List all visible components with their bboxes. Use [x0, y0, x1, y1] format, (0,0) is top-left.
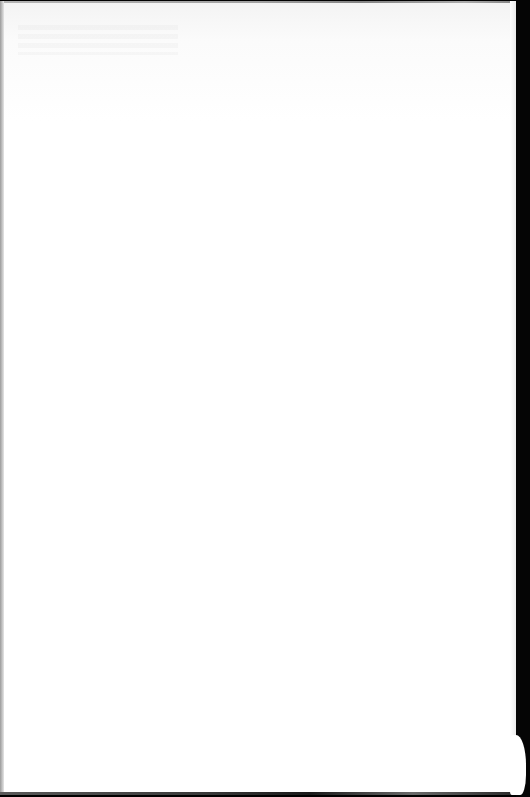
- page-bottom-edge: [0, 792, 516, 795]
- scanner-bed-band: [516, 0, 530, 797]
- page-top-edge: [0, 1, 516, 3]
- blank-page: [0, 1, 516, 795]
- scan-frame: [0, 0, 530, 797]
- page-right-edge: [510, 1, 516, 795]
- page-left-edge: [0, 1, 4, 795]
- faint-show-through-text: [18, 25, 178, 55]
